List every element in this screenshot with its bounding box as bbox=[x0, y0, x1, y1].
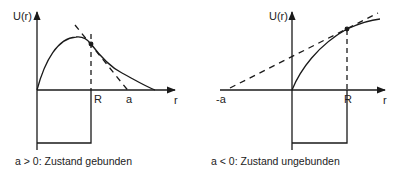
left-tick-a: a bbox=[126, 94, 132, 105]
left-x-axis-label: r bbox=[174, 95, 178, 106]
right-tangent-dashed bbox=[230, 13, 378, 88]
left-caption: a > 0: Zustand gebunden bbox=[15, 156, 132, 167]
right-well-box bbox=[292, 90, 347, 143]
right-match-point bbox=[345, 27, 349, 31]
left-tick-R: R bbox=[94, 94, 102, 105]
right-caption: a < 0: Zustand ungebunden bbox=[211, 156, 340, 167]
left-match-point bbox=[89, 42, 93, 46]
left-diagram bbox=[37, 12, 175, 150]
right-diagram bbox=[220, 12, 385, 150]
left-y-axis-label: U(r) bbox=[13, 11, 32, 22]
right-x-axis-label: r bbox=[383, 95, 387, 106]
diagrams bbox=[0, 0, 400, 178]
right-tick-neg-a: -a bbox=[216, 94, 226, 105]
left-wavefunction-curve bbox=[37, 37, 155, 90]
left-well-box bbox=[37, 90, 91, 143]
left-tangent-dashed bbox=[75, 25, 130, 93]
right-tick-R: R bbox=[344, 94, 352, 105]
right-wavefunction-curve bbox=[292, 19, 380, 90]
right-y-axis-label: U(r) bbox=[269, 11, 288, 22]
